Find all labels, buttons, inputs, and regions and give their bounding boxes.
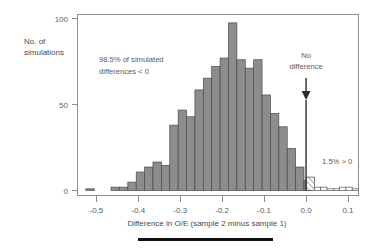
histogram-bar bbox=[254, 60, 262, 191]
histogram-bar bbox=[212, 66, 220, 190]
histogram-bar bbox=[220, 58, 228, 190]
y-tick-label-50: 50 bbox=[59, 101, 68, 110]
histogram-bar bbox=[136, 172, 144, 190]
histogram-bar bbox=[187, 117, 195, 191]
x-axis-title: Difference in O/E (sample 2 minus sample… bbox=[127, 219, 286, 228]
x-tick-label: -0.2 bbox=[215, 206, 229, 215]
x-tick-label: -0.5 bbox=[89, 206, 103, 215]
y-axis-title-line2: simulations bbox=[24, 48, 64, 57]
no-difference-label-line1: No bbox=[301, 51, 311, 60]
histogram-bar bbox=[237, 60, 245, 191]
left-annotation-line2: differences < 0 bbox=[99, 67, 149, 76]
histogram-bar bbox=[128, 182, 136, 190]
histogram-bar bbox=[314, 187, 320, 190]
histogram-bar bbox=[86, 189, 94, 191]
histogram-bar bbox=[111, 187, 119, 190]
histogram-bar bbox=[153, 162, 161, 191]
histogram-bar bbox=[306, 177, 314, 190]
left-annotation-line1: 98.5% of simulated bbox=[99, 55, 164, 64]
histogram-bar bbox=[203, 78, 211, 190]
histogram-bar bbox=[321, 187, 327, 190]
histogram-bar bbox=[195, 90, 203, 191]
histogram-bar bbox=[228, 23, 236, 191]
y-tick-label-0: 0 bbox=[64, 187, 69, 196]
bars-layer bbox=[86, 23, 359, 191]
y-axis-title-line1: No. of bbox=[24, 37, 46, 46]
y-tick-label-100: 100 bbox=[55, 15, 69, 24]
histogram-bar bbox=[270, 113, 278, 190]
x-tick-label: -0.3 bbox=[173, 206, 187, 215]
y-axis: 100 50 0 bbox=[55, 15, 78, 196]
no-difference-label-line2: difference bbox=[289, 62, 322, 71]
histogram-bar bbox=[327, 189, 333, 191]
y-axis-title: No. of simulations bbox=[24, 37, 64, 57]
histogram-bar bbox=[145, 167, 153, 190]
histogram-bar bbox=[296, 167, 304, 190]
histogram-bar bbox=[161, 165, 169, 190]
histogram-svg: 100 50 0 No. of simulations -0.5-0.4-0.3… bbox=[0, 0, 378, 250]
x-tick-label: 0.0 bbox=[301, 206, 313, 215]
histogram-bar bbox=[178, 110, 186, 190]
histogram-bar bbox=[245, 68, 253, 190]
histogram-bar bbox=[352, 189, 358, 191]
histogram-bar bbox=[279, 127, 287, 191]
histogram-bar bbox=[262, 95, 270, 191]
histogram-bar bbox=[119, 187, 127, 190]
histogram-bar bbox=[333, 189, 339, 191]
histogram-bar bbox=[287, 149, 295, 191]
x-tick-label: -0.1 bbox=[257, 206, 271, 215]
histogram-figure: 100 50 0 No. of simulations -0.5-0.4-0.3… bbox=[0, 0, 378, 250]
right-annotation: 1.5% > 0 bbox=[322, 157, 352, 166]
x-tick-label: -0.4 bbox=[131, 206, 145, 215]
histogram-bar bbox=[340, 187, 346, 190]
x-axis: -0.5-0.4-0.3-0.2-0.10.00.1 bbox=[89, 196, 354, 215]
x-tick-label: 0.1 bbox=[342, 206, 354, 215]
histogram-bar bbox=[170, 125, 178, 190]
left-annotation: 98.5% of simulated differences < 0 bbox=[99, 55, 164, 76]
histogram-bar bbox=[346, 187, 352, 190]
